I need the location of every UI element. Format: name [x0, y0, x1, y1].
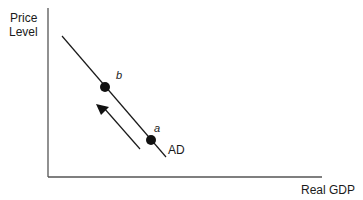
point-a-label: a — [154, 121, 160, 136]
movement-arrow-shaft — [104, 108, 140, 149]
point-a — [146, 135, 156, 145]
x-axis-label: Real GDP — [301, 183, 355, 198]
point-b-label: b — [116, 68, 122, 83]
point-b — [100, 82, 110, 92]
ad-diagram — [0, 0, 363, 200]
y-axis-label-line2: Level — [9, 25, 38, 40]
arrowhead-icon — [96, 104, 109, 115]
ad-curve-label: AD — [168, 143, 185, 158]
y-axis-label-line1: Price — [10, 11, 37, 26]
